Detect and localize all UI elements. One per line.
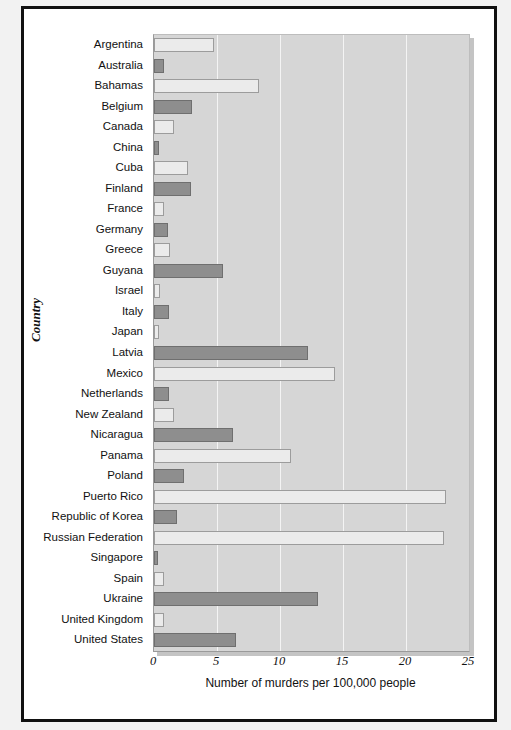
bar-row: [154, 569, 469, 591]
bar-russian-federation: [154, 531, 444, 545]
category-label-canada: Canada: [0, 116, 148, 138]
bar-row: [154, 507, 469, 529]
bar-row: [154, 220, 469, 242]
bar-argentina: [154, 38, 214, 52]
category-label-puerto-rico: Puerto Rico: [0, 486, 148, 508]
bar-body: [154, 141, 159, 155]
bar-row: [154, 158, 469, 180]
category-label-new-zealand: New Zealand: [0, 404, 148, 426]
bar-row: [154, 466, 469, 488]
bar-body: [154, 510, 177, 524]
bar-row: [154, 240, 469, 262]
bar-row: [154, 487, 469, 509]
category-label-belgium: Belgium: [0, 96, 148, 118]
bar-row: [154, 179, 469, 201]
bar-body: [154, 449, 291, 463]
bar-row: [154, 528, 469, 550]
bar-singapore: [154, 551, 158, 565]
bar-netherlands: [154, 387, 169, 401]
x-axis-title: Number of murders per 100,000 people: [153, 676, 468, 690]
bar-row: [154, 343, 469, 365]
bar-body: [154, 428, 233, 442]
bar-row: [154, 76, 469, 98]
screenshot-root: ArgentinaAustraliaBahamasBelgiumCanadaCh…: [0, 0, 511, 730]
x-tick-15: 15: [336, 654, 349, 669]
bar-body: [154, 223, 168, 237]
category-label-mexico: Mexico: [0, 363, 148, 385]
category-label-latvia: Latvia: [0, 342, 148, 364]
bar-united-kingdom: [154, 613, 164, 627]
category-label-bahamas: Bahamas: [0, 75, 148, 97]
bar-chart: ArgentinaAustraliaBahamasBelgiumCanadaCh…: [0, 0, 511, 730]
category-label-cuba: Cuba: [0, 157, 148, 179]
bar-row: [154, 384, 469, 406]
bar-body: [154, 551, 158, 565]
plot-area: [153, 34, 470, 652]
bar-poland: [154, 469, 184, 483]
category-label-ukraine: Ukraine: [0, 588, 148, 610]
bar-row: [154, 322, 469, 344]
category-label-nicaragua: Nicaragua: [0, 424, 148, 446]
bar-cuba: [154, 161, 188, 175]
bar-germany: [154, 223, 168, 237]
bar-row: [154, 405, 469, 427]
category-label-panama: Panama: [0, 445, 148, 467]
bar-row: [154, 138, 469, 160]
bar-body: [154, 264, 223, 278]
x-tick-25: 25: [462, 654, 475, 669]
bar-spain: [154, 572, 164, 586]
category-label-argentina: Argentina: [0, 34, 148, 56]
bar-body: [154, 572, 164, 586]
bar-body: [154, 592, 318, 606]
bar-body: [154, 120, 174, 134]
bar-italy: [154, 305, 169, 319]
category-label-poland: Poland: [0, 465, 148, 487]
bar-united-states: [154, 633, 236, 647]
bar-australia: [154, 59, 164, 73]
bar-body: [154, 182, 191, 196]
y-axis-title: Country: [28, 298, 44, 342]
bar-row: [154, 630, 469, 652]
bar-row: [154, 302, 469, 324]
bar-row: [154, 117, 469, 139]
bar-panama: [154, 449, 291, 463]
bar-row: [154, 281, 469, 303]
bar-body: [154, 161, 188, 175]
bar-rows: [154, 35, 469, 651]
bar-row: [154, 548, 469, 570]
bar-body: [154, 79, 259, 93]
bar-row: [154, 364, 469, 386]
bar-row: [154, 199, 469, 221]
x-tick-0: 0: [150, 654, 156, 669]
bar-body: [154, 531, 444, 545]
x-axis-tick-labels: 0510152025: [0, 654, 511, 672]
bar-body: [154, 346, 308, 360]
category-label-greece: Greece: [0, 239, 148, 261]
bar-body: [154, 469, 184, 483]
bar-body: [154, 387, 169, 401]
bar-body: [154, 202, 164, 216]
bar-finland: [154, 182, 191, 196]
bar-row: [154, 425, 469, 447]
bar-body: [154, 284, 160, 298]
category-label-russian-federation: Russian Federation: [0, 527, 148, 549]
category-label-netherlands: Netherlands: [0, 383, 148, 405]
bar-canada: [154, 120, 174, 134]
bar-body: [154, 408, 174, 422]
bar-china: [154, 141, 159, 155]
x-tick-5: 5: [213, 654, 219, 669]
bar-body: [154, 325, 159, 339]
category-label-republic-of-korea: Republic of Korea: [0, 506, 148, 528]
x-tick-20: 20: [399, 654, 412, 669]
bar-row: [154, 610, 469, 632]
x-tick-10: 10: [273, 654, 286, 669]
category-label-germany: Germany: [0, 219, 148, 241]
bar-guyana: [154, 264, 223, 278]
bar-row: [154, 56, 469, 78]
bar-republic-of-korea: [154, 510, 177, 524]
category-label-china: China: [0, 137, 148, 159]
category-label-spain: Spain: [0, 568, 148, 590]
bar-body: [154, 100, 192, 114]
bar-body: [154, 38, 214, 52]
category-label-united-kingdom: United Kingdom: [0, 609, 148, 631]
